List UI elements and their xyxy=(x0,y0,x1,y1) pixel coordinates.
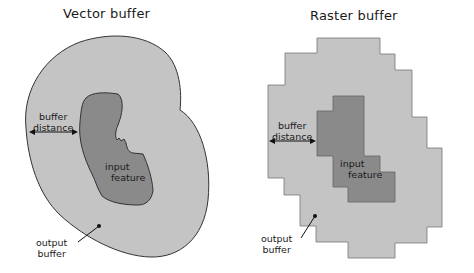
vector-panel xyxy=(26,36,209,257)
vector-buffer-distance-label: buffer distance xyxy=(33,111,73,133)
raster-panel-title: Raster buffer xyxy=(310,8,398,23)
label-line: output xyxy=(261,233,292,244)
label-line: buffer xyxy=(33,111,73,122)
vector-output-buffer-label: output buffer xyxy=(36,237,67,259)
diagram-canvas xyxy=(0,0,474,273)
label-line: buffer xyxy=(261,244,292,255)
raster-output-buffer-label: output buffer xyxy=(261,233,292,255)
vector-input-feature-label: input feature xyxy=(105,161,145,183)
label-line: buffer xyxy=(36,248,67,259)
label-line: distance xyxy=(272,131,312,142)
label-line: buffer xyxy=(272,120,312,131)
label-line: output xyxy=(36,237,67,248)
raster-panel xyxy=(268,38,442,258)
label-line: input xyxy=(105,161,145,172)
label-line: input xyxy=(340,158,382,169)
raster-buffer-distance-label: buffer distance xyxy=(272,120,312,142)
label-line: feature xyxy=(340,169,382,180)
label-line: feature xyxy=(105,172,145,183)
raster-input-feature-label: input feature xyxy=(340,158,382,180)
vector-panel-title: Vector buffer xyxy=(63,6,150,21)
label-line: distance xyxy=(33,122,73,133)
